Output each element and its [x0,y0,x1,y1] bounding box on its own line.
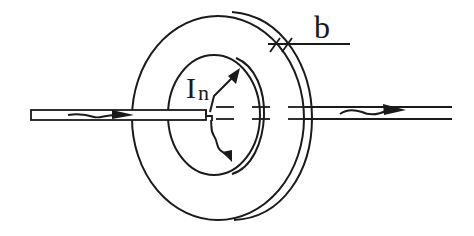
thickness-label: b [314,9,330,45]
current-label: I [186,71,196,104]
right-arrowhead-icon [383,104,406,115]
right-current-arrow [340,110,388,114]
current-subscript-label: n [198,80,209,105]
toroid-diagram: b I n [0,0,474,236]
